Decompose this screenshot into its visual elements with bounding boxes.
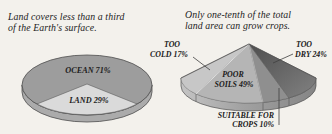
poor-soils-label-line1: POOR (222, 70, 243, 79)
suitable-label-line1: SUITABLE FOR (218, 111, 274, 120)
poor-soils-label-line2: SOILS 49% (215, 80, 254, 89)
too-cold-label-line2: COLD 17% (150, 50, 188, 59)
too-dry-label-line2: DRY 24% (294, 50, 327, 59)
left-pie-chart: Land covers less than a third of the Ear… (7, 11, 152, 122)
land-slice-label: LAND 29% (68, 96, 109, 105)
right-caption-line2: land area can grow crops. (185, 20, 290, 31)
figure-canvas: Land covers less than a third of the Ear… (0, 0, 332, 134)
left-caption-line2: of the Earth's surface. (8, 22, 97, 33)
ocean-slice-label: OCEAN 71% (65, 66, 110, 75)
right-cone-pie-chart: Only one-tenth of the total land area ca… (150, 9, 327, 129)
left-caption-line1: Land covers less than a third (7, 11, 125, 22)
suitable-label-line2: CROPS 10% (232, 120, 274, 129)
right-caption-line1: Only one-tenth of the total (185, 9, 291, 20)
two-pie-chart-figure: Land covers less than a third of the Ear… (0, 0, 332, 134)
too-dry-label-line1: TOO (296, 40, 312, 49)
too-cold-label-line1: TOO (164, 40, 180, 49)
